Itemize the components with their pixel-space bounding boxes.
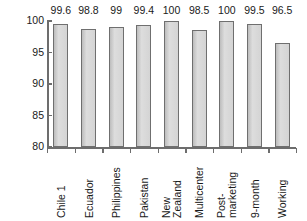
x-tick-mark <box>296 148 297 153</box>
bar-value-label: 96.5 <box>268 5 296 16</box>
x-category-label-line: Philippines <box>110 167 122 218</box>
x-category-label-line: Ecuador <box>83 179 95 218</box>
x-tick-mark <box>47 148 48 153</box>
x-category-label-line: Working <box>276 180 288 218</box>
bar <box>81 29 96 147</box>
x-tick-mark <box>75 148 76 153</box>
y-tick-label: 100 <box>18 15 44 25</box>
x-tick-mark <box>158 148 159 153</box>
bar-value-label: 99 <box>102 5 130 16</box>
x-category-label-line: Zealand <box>172 180 183 218</box>
bar <box>219 21 234 147</box>
x-tick-mark <box>241 148 242 153</box>
bars-layer <box>47 21 296 147</box>
x-tick-mark <box>213 148 214 153</box>
y-tick-label: 80 <box>18 141 44 151</box>
bar-value-label: 100 <box>158 5 186 16</box>
x-category-label-line: Multicenter <box>193 167 205 218</box>
bar-value-label: 100 <box>213 5 241 16</box>
bar-value-label: 98.5 <box>185 5 213 16</box>
x-tick-mark <box>268 148 269 153</box>
bar-value-label: 99.6 <box>47 5 75 16</box>
bar-value-label: 99.5 <box>241 5 269 16</box>
bar <box>192 30 207 147</box>
y-tick-label: 85 <box>18 110 44 120</box>
x-tick-mark <box>185 148 186 153</box>
bar-chart: Percent 80859095100 99.698.89999.410098.… <box>0 0 307 221</box>
x-category-label-line: New <box>161 180 172 218</box>
bar <box>247 24 262 147</box>
bar <box>109 27 124 147</box>
x-category-label-line: Chile 1 <box>55 185 67 218</box>
bar <box>164 21 179 147</box>
x-category-label-line: marketing <box>227 172 238 218</box>
x-tick-mark <box>102 148 103 153</box>
bar <box>136 25 151 147</box>
x-axis-line <box>47 147 296 149</box>
bar-value-label: 98.8 <box>75 5 103 16</box>
y-tick-label: 95 <box>18 47 44 57</box>
x-category-label-line: 9-month <box>249 179 261 218</box>
bar <box>275 43 290 147</box>
bar <box>53 24 68 147</box>
x-category-label-line: Pakistan <box>138 178 150 218</box>
x-tick-mark <box>130 148 131 153</box>
y-tick-label: 90 <box>18 78 44 88</box>
bar-value-label: 99.4 <box>130 5 158 16</box>
